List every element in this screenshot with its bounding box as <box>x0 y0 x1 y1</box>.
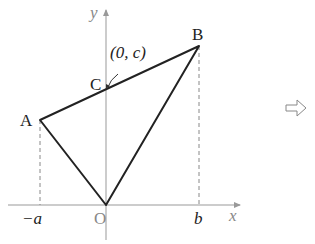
x-axis-label: x <box>228 206 237 225</box>
coordinate-diagram: y x O A B C (0, c) −a b <box>0 0 315 244</box>
point-a-label: A <box>20 111 33 130</box>
point-b-label: B <box>192 25 203 44</box>
right-arrow-icon <box>286 100 306 116</box>
triangle-AOB <box>40 46 199 205</box>
point-c-label: C <box>90 75 101 94</box>
tick-b: b <box>194 209 203 228</box>
tick-neg-a: −a <box>22 209 42 228</box>
y-axis-label: y <box>88 3 98 22</box>
c-coordinate-label: (0, c) <box>110 43 146 62</box>
origin-label: O <box>94 209 106 228</box>
